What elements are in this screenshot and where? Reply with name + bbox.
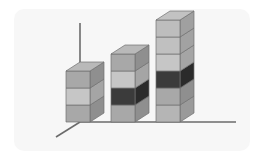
bar-segment-front-face bbox=[66, 105, 90, 122]
bar-segment-front-face bbox=[111, 71, 135, 88]
bar-segment-front-face bbox=[156, 105, 180, 122]
bar-segment-front-face bbox=[156, 71, 180, 88]
bar-column bbox=[156, 11, 194, 122]
bar-segment-front-face bbox=[156, 88, 180, 105]
bar-chart-3d bbox=[0, 0, 264, 160]
bar-segment-front-face bbox=[111, 88, 135, 105]
bar-segment-front-face bbox=[156, 54, 180, 71]
z-axis-line bbox=[56, 122, 80, 137]
bar-column bbox=[66, 62, 104, 122]
bar-segment-front-face bbox=[156, 20, 180, 37]
bar-column bbox=[111, 45, 149, 122]
bar-segment-front-face bbox=[66, 88, 90, 105]
bar-segment-front-face bbox=[156, 37, 180, 54]
bar-segment-front-face bbox=[111, 105, 135, 122]
chart-image bbox=[0, 0, 264, 160]
bar-segment-front-face bbox=[66, 71, 90, 88]
bar-segment-front-face bbox=[111, 54, 135, 71]
